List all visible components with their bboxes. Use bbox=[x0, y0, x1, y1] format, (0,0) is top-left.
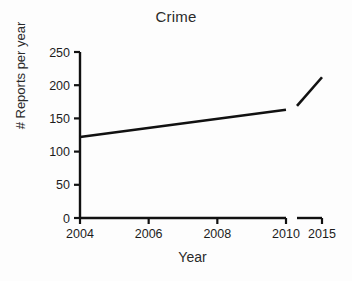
y-tick-label-150: 150 bbox=[49, 112, 70, 126]
series-line-1 bbox=[297, 77, 322, 106]
crime-line-chart: Crime # Reports per year Year 0501001502… bbox=[0, 0, 352, 281]
x-tick-label-2010: 2010 bbox=[272, 227, 300, 241]
x-tick-label-2006: 2006 bbox=[135, 227, 163, 241]
series-line-0 bbox=[80, 110, 286, 137]
y-tick-label-200: 200 bbox=[49, 79, 70, 93]
x-tick-label-2015: 2015 bbox=[308, 227, 336, 241]
x-tick-label-2008: 2008 bbox=[203, 227, 231, 241]
y-tick-label-0: 0 bbox=[63, 212, 70, 226]
plot-area: 050100150200250 20042006200820102015 bbox=[0, 0, 352, 281]
y-tick-label-100: 100 bbox=[49, 145, 70, 159]
x-tick-label-group: 20042006200820102015 bbox=[66, 227, 336, 241]
y-tick-label-group: 050100150200250 bbox=[49, 46, 70, 226]
y-tick-label-250: 250 bbox=[49, 46, 70, 60]
x-tick-label-2004: 2004 bbox=[66, 227, 94, 241]
data-series-group bbox=[80, 77, 322, 137]
y-tick-label-50: 50 bbox=[56, 178, 70, 192]
